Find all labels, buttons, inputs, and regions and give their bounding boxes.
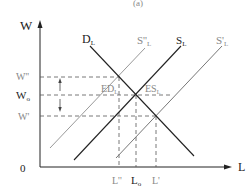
y-tick-w-prime: W': [18, 111, 29, 122]
x-tick-l-double-prime: L'': [112, 175, 122, 186]
y-axis-label: W: [20, 18, 33, 33]
curve-label-demand: DL: [82, 32, 95, 47]
x-tick-l-o: Lo: [131, 174, 142, 188]
x-axis-label: L: [238, 160, 245, 174]
curve-demand: [90, 46, 194, 156]
curve-supply-s-prime: [116, 46, 222, 158]
y-tick-w-o: Wo: [16, 89, 30, 103]
x-axis-arrow-icon: [224, 165, 232, 170]
excess-demand-label: EDL: [101, 83, 118, 95]
origin-label: 0: [20, 162, 26, 174]
curve-label-s: SL: [176, 34, 186, 48]
figure-caption: (a): [133, 0, 143, 8]
curve-label-s-prime: S'L: [216, 34, 228, 48]
y-tick-w-o-sub: o: [26, 95, 30, 103]
curve-label-s-double-prime: S''L: [137, 34, 151, 48]
labor-market-diagram: (a) W L 0 W'' Wo W' L'' Lo L' S''L SL S'…: [0, 0, 252, 191]
curve-supply-s-double-prime: [50, 48, 145, 148]
x-tick-l-prime: L': [152, 175, 160, 186]
y-axis-arrow-icon: [38, 20, 43, 28]
x-tick-l-o-sub: o: [138, 180, 142, 188]
arrow-down-icon: [58, 107, 61, 112]
arrow-up-icon: [58, 78, 61, 83]
excess-supply-label: ESL: [145, 83, 161, 95]
y-tick-w-double-prime: W'': [16, 71, 29, 82]
curve-supply-s: [74, 46, 181, 160]
